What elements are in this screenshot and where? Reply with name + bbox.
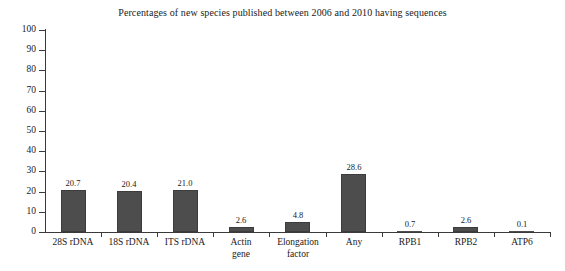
y-axis-line [45,29,46,233]
bar [285,222,310,232]
y-axis-tick-label: 100 [0,25,36,35]
bar-value-label: 0.7 [388,220,432,229]
bar [397,231,422,233]
bar [173,190,198,232]
y-axis-tick [39,50,45,51]
bar-value-label: 2.6 [219,216,263,225]
x-axis-line [45,232,551,233]
bar-value-label: 0.1 [500,220,544,229]
y-axis-tick [39,192,45,193]
bar-value-label: 20.4 [107,180,151,189]
bar [229,227,254,232]
y-axis-tick-label: 40 [0,146,36,156]
y-axis-tick-label-text: 40 [0,146,36,156]
y-axis-tick-label: 60 [0,106,36,116]
y-axis-tick-label: 70 [0,86,36,96]
x-axis-category-label-line: factor [264,248,332,260]
y-axis-tick [39,111,45,112]
y-axis-tick-label-text: 60 [0,106,36,116]
y-axis-tick [39,91,45,92]
y-axis-tick [39,131,45,132]
y-axis-tick-label-text: 30 [0,166,36,176]
y-axis-tick-label: 20 [0,187,36,197]
bar-value-label: 4.8 [276,211,320,220]
y-axis-tick-label: 0 [0,227,36,237]
y-axis-tick-label-text: 10 [0,207,36,217]
bar-value-label: 2.6 [444,216,488,225]
bar [341,174,366,232]
y-axis-tick-label-text: 70 [0,86,36,96]
y-axis-tick [39,171,45,172]
bar [453,227,478,232]
y-axis-tick [39,30,45,31]
bar [61,190,86,232]
y-axis-tick-label-text: 20 [0,187,36,197]
y-axis-tick-label: 10 [0,207,36,217]
y-axis-tick-label: 30 [0,166,36,176]
x-axis-category-label-line: ATP6 [488,236,556,248]
chart-title: Percentages of new species published bet… [0,6,565,19]
y-axis-tick [39,212,45,213]
bar-chart-figure: Percentages of new species published bet… [0,0,565,271]
y-axis-tick-label: 90 [0,45,36,55]
bar-value-label: 20.7 [51,179,95,188]
bar [117,191,142,232]
bar-value-label: 21.0 [163,179,207,188]
y-axis-tick-label: 80 [0,65,36,75]
y-axis-tick [39,232,45,233]
y-axis-tick-label-text: 80 [0,65,36,75]
y-axis-tick-label-text: 0 [0,227,36,237]
y-axis-tick-label: 50 [0,126,36,136]
y-axis-tick-label-text: 50 [0,126,36,136]
y-axis-tick-label-text: 100 [0,25,36,35]
bar-value-label: 28.6 [332,163,376,172]
y-axis-tick [39,70,45,71]
y-axis-tick [39,151,45,152]
y-axis-tick-label-text: 90 [0,45,36,55]
bar [509,231,534,233]
x-axis-category-label: ATP6 [488,236,556,248]
